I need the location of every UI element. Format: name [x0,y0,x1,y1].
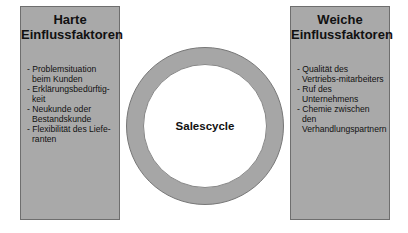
list-item: - Erklärungsbedürftig-keit [27,84,116,104]
salescycle-label: Salescycle [176,120,235,132]
list-item: - Neukunde oder Bestandskunde [27,104,116,124]
list-item: - Problemsituation beim Kunden [27,64,116,84]
salescycle-ring: Salescycle [126,47,284,205]
soft-factors-title: Weiche Einflussfaktoren [291,12,389,42]
soft-factors-list: - Qualität des Vertriebs-mitarbeiters - … [291,64,389,134]
hard-factors-list: - Problemsituation beim Kunden - Erkläru… [21,64,119,144]
hard-factors-box: Harte Einflussfaktoren - Problemsituatio… [20,6,120,220]
soft-factors-box: Weiche Einflussfaktoren - Qualität des V… [290,6,390,220]
soft-factors-title-line1: Weiche [291,12,389,27]
soft-factors-title-line2: Einflussfaktoren [291,27,389,42]
hard-factors-title-line1: Harte [21,12,119,27]
list-item: - Chemie zwischen den Verhandlungspartne… [297,104,386,134]
list-item: - Ruf des Unternehmens [297,84,386,104]
salescycle-ring-center: Salescycle [143,64,267,188]
hard-factors-title: Harte Einflussfaktoren [21,12,119,42]
list-item: - Flexibilität des Liefe-ranten [27,124,116,144]
hard-factors-title-line2: Einflussfaktoren [21,27,119,42]
list-item: - Qualität des Vertriebs-mitarbeiters [297,64,386,84]
